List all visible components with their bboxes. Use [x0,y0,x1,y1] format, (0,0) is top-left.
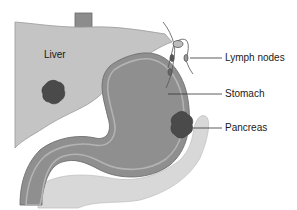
label-stomach: Stomach [225,89,264,99]
label-pancreas: Pancreas [225,123,267,133]
esophagus [75,13,92,29]
label-lymph-nodes: Lymph nodes [225,53,285,63]
tumor-stomach [171,111,193,138]
stomach-cancer-diagram: Liver Lymph nodes Stomach Pancreas [0,0,297,210]
label-liver: Liver [44,50,66,60]
